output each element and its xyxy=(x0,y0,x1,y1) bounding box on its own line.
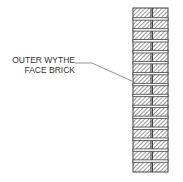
leader-line xyxy=(75,63,134,82)
wall-section-drawing xyxy=(0,0,183,182)
brick-wythe xyxy=(133,8,168,172)
